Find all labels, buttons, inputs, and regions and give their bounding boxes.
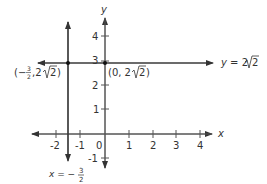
svg-text:2: 2 xyxy=(27,73,31,80)
svg-text:,2: ,2 xyxy=(32,67,42,78)
coordinate-plane: x -2 -1 0 1 2 3 4 y 4 3 2 1 -1 y = 2 2 x… xyxy=(0,0,267,184)
svg-text:3: 3 xyxy=(27,65,31,72)
svg-text:2: 2 xyxy=(79,176,83,184)
point-y-intercept xyxy=(103,61,107,65)
vertical-line-label: x = − 3 2 xyxy=(48,167,84,184)
y-axis-label: y xyxy=(100,4,108,15)
svg-text:(0, 2: (0, 2 xyxy=(108,67,131,78)
point-intersection-left xyxy=(66,61,70,65)
svg-text:y = 2: y = 2 xyxy=(220,57,248,68)
svg-text:): ) xyxy=(57,67,61,78)
x-tick-label: -2 xyxy=(50,140,60,151)
x-tick-label: 1 xyxy=(126,140,132,151)
horizontal-line-label: y = 2 2 xyxy=(220,56,259,68)
svg-text:2: 2 xyxy=(252,57,258,68)
point-label-left: (− 3 2 ,2 2 ) xyxy=(14,65,61,80)
svg-text:3: 3 xyxy=(79,167,83,175)
y-tick-label: 2 xyxy=(92,80,98,91)
svg-text:(−: (− xyxy=(14,67,26,78)
x-tick-label: 2 xyxy=(150,140,156,151)
x-tick-label: -1 xyxy=(75,140,85,151)
svg-text:): ) xyxy=(146,67,150,78)
x-axis xyxy=(32,130,212,138)
y-tick-label: 1 xyxy=(93,104,99,115)
svg-text:2: 2 xyxy=(50,67,56,78)
y-tick-label: 3 xyxy=(92,55,98,66)
x-tick-label: 3 xyxy=(173,140,179,151)
x-tick-label: 4 xyxy=(197,140,203,151)
origin-label: 0 xyxy=(96,140,102,151)
y-tick-label: -1 xyxy=(88,153,98,164)
x-axis-label: x xyxy=(217,128,224,139)
svg-text:x = −: x = − xyxy=(48,169,75,179)
point-label-right: (0, 2 2 ) xyxy=(108,66,150,78)
svg-text:2: 2 xyxy=(139,67,145,78)
y-tick-label: 4 xyxy=(92,31,98,42)
